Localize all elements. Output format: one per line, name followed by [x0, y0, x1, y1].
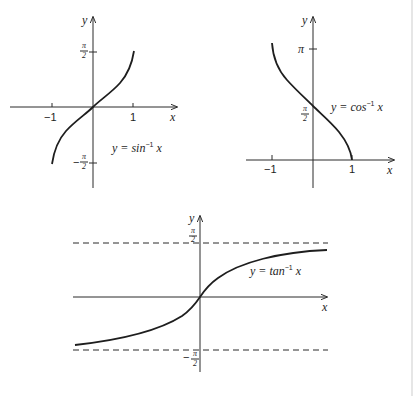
svg-text:−: −	[73, 156, 79, 168]
y-tick-label-pi-over-2: π 2	[301, 104, 309, 123]
arctan-label: y = tan−1x	[249, 264, 302, 278]
svg-text:π: π	[82, 152, 87, 161]
x-axis-label: x	[169, 110, 176, 124]
svg-text:2: 2	[193, 359, 197, 368]
y-axis-label: y	[188, 211, 195, 225]
y-axis-label: y	[81, 13, 88, 27]
tick-label-x-neg1: −1	[44, 111, 57, 123]
y-tick-label-neg-pi-over-2: − π 2	[183, 349, 199, 368]
arccos-label: y = cos−1x	[330, 100, 383, 114]
arcsin-chart: −1 1 x y π 2 − π 2 y = sin−1x	[10, 13, 177, 188]
arccos-chart: −1 1 x y π π 2 y = cos−1x	[246, 13, 394, 188]
svg-text:π: π	[303, 104, 308, 113]
inverse-trig-figure: −1 1 x y π 2 − π 2 y = sin−1x −1 1 x y π	[0, 0, 413, 396]
y-tick-label-pi: π	[298, 42, 305, 56]
svg-text:2: 2	[82, 51, 86, 60]
svg-text:2: 2	[191, 235, 195, 244]
svg-text:π: π	[82, 41, 87, 50]
svg-text:−: −	[183, 351, 189, 363]
tick-label-x-neg1: −1	[264, 163, 277, 175]
y-tick-label-pi-over-2: π 2	[189, 226, 197, 244]
x-axis-label: x	[386, 163, 393, 177]
tick-label-x-1: 1	[349, 163, 355, 175]
arctan-chart: x y π 2 − π 2 y = tan−1x	[73, 211, 328, 372]
y-tick-label-neg-pi-over-2: − π 2	[73, 152, 88, 171]
svg-text:2: 2	[82, 162, 86, 171]
tick-label-x-1: 1	[130, 111, 136, 123]
svg-text:2: 2	[303, 114, 307, 123]
svg-text:π: π	[191, 226, 196, 235]
y-tick-label-pi-over-2: π 2	[80, 41, 88, 60]
x-axis-label: x	[321, 300, 328, 314]
y-axis-label: y	[301, 13, 308, 27]
arcsin-label: y = sin−1x	[111, 141, 162, 155]
